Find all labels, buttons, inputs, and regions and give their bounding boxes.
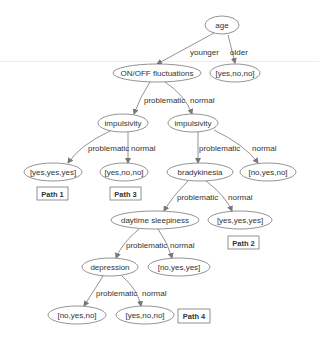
edge-label-brady-normal: normal: [228, 193, 253, 202]
node-label-leaf-path3: [yes,no,no]: [104, 168, 143, 177]
edge-label-younger: younger: [190, 48, 219, 57]
node-label-leaf-daytime-normal: [no,yes,yes]: [158, 263, 201, 272]
node-label-age: age: [215, 21, 229, 30]
decision-tree-diagram: younger older problematic normal problem…: [0, 0, 319, 342]
node-label-leaf-impulsivity-normal: [no,yes,no]: [248, 168, 287, 177]
path4-label: Path 4: [183, 312, 206, 321]
path1-label: Path 1: [41, 190, 64, 199]
node-label-onoff: ON/OFF fluctuations: [121, 69, 194, 78]
edge-label-impl-left-problematic: problematic: [88, 144, 129, 153]
node-label-impulsivity-left: impulsivity: [105, 119, 142, 128]
edge-label-brady-problematic: problematic: [177, 193, 218, 202]
node-label-leaf-path2: [yes,yes,yes]: [217, 216, 263, 225]
node-label-daytime-sleepiness: daytime sleepiness: [121, 216, 189, 225]
edge-label-impl-right-problematic: problematic: [199, 144, 240, 153]
node-label-leaf-path4: [yes,no,no]: [125, 311, 164, 320]
edge-label-daytime-problematic: problematic: [126, 241, 167, 250]
node-label-bradykinesia: bradykinesia: [178, 168, 223, 177]
edge-label-impl-right-normal: normal: [252, 144, 277, 153]
node-label-leaf-depression-problematic: [no,yes,no]: [57, 311, 96, 320]
edge-label-impl-left-normal: normal: [131, 144, 156, 153]
path3-label: Path 3: [114, 190, 137, 199]
edge-label-older: older: [230, 48, 248, 57]
edge-label-onoff-normal: normal: [190, 96, 215, 105]
path2-label: Path 2: [232, 239, 255, 248]
edge-label-onoff-problematic: problematic: [144, 96, 185, 105]
node-label-impulsivity-right: impulsivity: [175, 119, 212, 128]
edge-label-depression-normal: normal: [142, 289, 167, 298]
node-label-older-leaf: [yes,no,no]: [215, 69, 254, 78]
node-label-depression: depression: [90, 263, 129, 272]
edge-label-depression-problematic: problematic: [96, 289, 137, 298]
node-label-leaf-path1: [yes,yes,yes]: [30, 168, 76, 177]
edge-label-daytime-normal: normal: [170, 241, 195, 250]
